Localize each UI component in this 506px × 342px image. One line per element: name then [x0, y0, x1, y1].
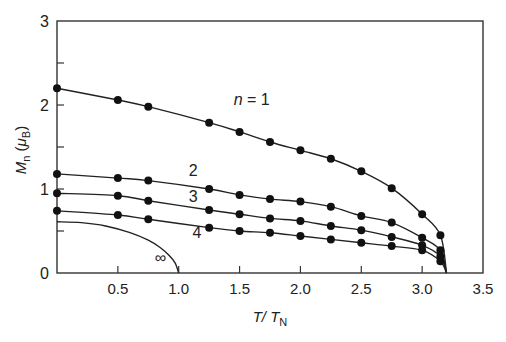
y-axis-label: Mn (μB) [12, 126, 32, 174]
data-point-marker [266, 195, 274, 203]
data-point-marker [53, 84, 61, 92]
data-point-marker [357, 212, 365, 220]
data-point-marker [357, 239, 365, 247]
y-axis-ticks: 0123 [40, 13, 64, 282]
x-tick-label: 0.5 [107, 280, 128, 297]
data-point-marker [388, 242, 396, 250]
data-point-marker [53, 189, 61, 197]
data-point-marker [236, 210, 244, 218]
data-point-marker [53, 170, 61, 178]
data-point-marker [436, 231, 444, 239]
data-point-marker [296, 217, 304, 225]
data-point-marker [296, 232, 304, 240]
series-1 [53, 84, 446, 273]
data-point-marker [296, 198, 304, 206]
y-tick-label: 3 [40, 13, 49, 30]
data-point-marker [114, 174, 122, 182]
data-point-marker [236, 227, 244, 235]
data-point-marker [205, 185, 213, 193]
data-point-marker [266, 214, 274, 222]
x-axis-ticks: 0.51.01.52.02.53.03.5 [107, 266, 493, 297]
x-tick-label: 2.0 [290, 280, 311, 297]
data-point-marker [144, 177, 152, 185]
x-tick-label: 1.5 [229, 280, 250, 297]
curve-line [57, 211, 446, 273]
curve-label: 4 [193, 224, 202, 241]
curve-label: 3 [189, 188, 198, 205]
y-tick-label: 0 [40, 265, 49, 282]
data-point-marker [114, 96, 122, 104]
data-point-marker [418, 246, 426, 254]
data-point-marker [144, 103, 152, 111]
data-point-marker [327, 203, 335, 211]
curve-label: n = 1 [234, 91, 270, 108]
series-layer [53, 84, 446, 273]
x-tick-label: 1.0 [168, 280, 189, 297]
data-point-marker [53, 207, 61, 215]
data-point-marker [327, 235, 335, 243]
x-tick-label: 3.5 [473, 280, 494, 297]
x-tick-label: 3.0 [412, 280, 433, 297]
data-point-marker [436, 257, 444, 265]
x-tick-label: 2.5 [351, 280, 372, 297]
data-point-marker [418, 210, 426, 218]
data-point-marker [144, 197, 152, 205]
data-point-marker [327, 155, 335, 163]
data-point-marker [236, 191, 244, 199]
data-point-marker [205, 206, 213, 214]
y-tick-label: 1 [40, 181, 49, 198]
data-point-marker [327, 222, 335, 230]
data-point-marker [357, 167, 365, 175]
curve-label: ∞ [155, 249, 166, 266]
data-point-marker [266, 229, 274, 237]
curve-labels: n = 1234∞ [155, 91, 270, 266]
data-point-marker [357, 226, 365, 234]
data-point-marker [205, 224, 213, 232]
data-point-marker [418, 234, 426, 242]
data-point-marker [388, 184, 396, 192]
data-point-marker [236, 128, 244, 136]
curve-label: 2 [189, 162, 198, 179]
series-4 [53, 207, 446, 273]
data-point-marker [205, 119, 213, 127]
y-tick-label: 2 [40, 97, 49, 114]
data-point-marker [388, 233, 396, 241]
magnetization-chart: 0123 0.51.01.52.02.53.03.5 n = 1234∞ T/ … [0, 0, 506, 342]
data-point-marker [114, 211, 122, 219]
data-point-marker [388, 219, 396, 227]
data-point-marker [266, 138, 274, 146]
data-point-marker [296, 146, 304, 154]
data-point-marker [114, 192, 122, 200]
data-point-marker [144, 215, 152, 223]
x-axis-label: T/ TN [253, 308, 288, 328]
curve-line [57, 193, 446, 273]
